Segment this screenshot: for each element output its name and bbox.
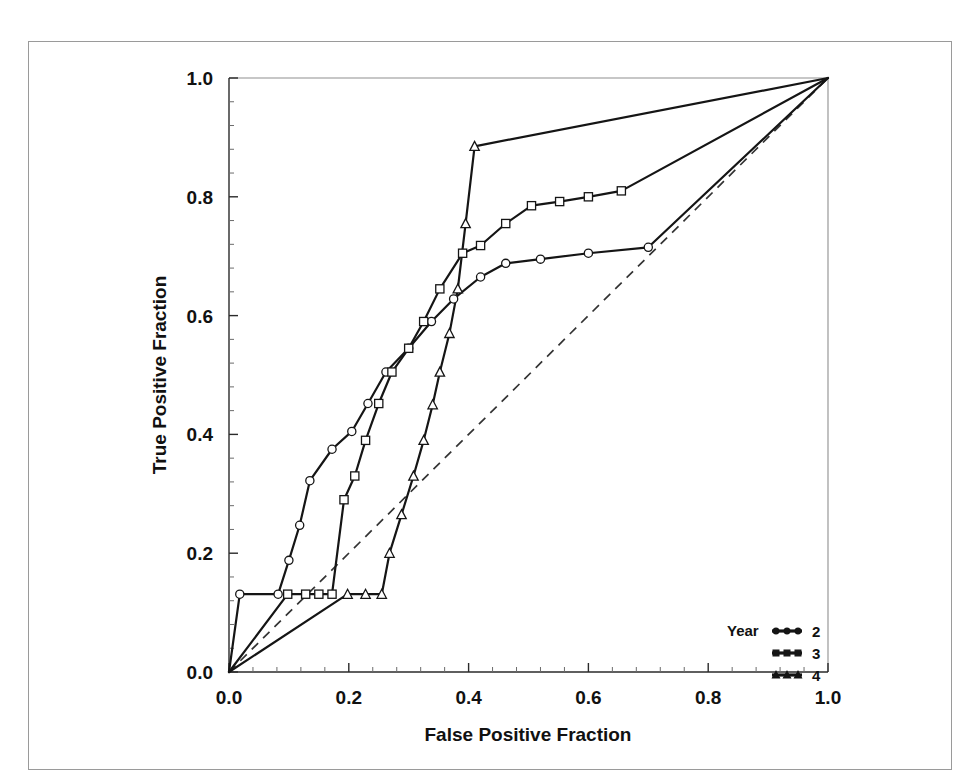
marker-square-year-3 [436,285,444,293]
x-tick-label: 0.6 [575,687,601,708]
marker-square-year-3 [617,187,625,195]
marker-triangle-year-4 [445,329,454,338]
marker-square-year-3 [527,202,535,210]
marker-circle-year-2 [644,243,652,251]
marker-square-year-3 [502,219,510,227]
legend-label-year-2: 2 [812,623,820,640]
marker-circle-year-2 [306,477,314,485]
marker-triangle-year-4 [409,471,418,480]
marker-circle-year-2 [285,556,293,564]
marker-square-year-3 [361,436,369,444]
x-axis-title: False Positive Fraction [425,724,632,745]
legend-marker-square-3-1 [784,650,790,656]
x-tick-label: 0.4 [455,687,482,708]
marker-triangle-year-4 [453,284,462,293]
legend[interactable]: Year234 [727,622,821,684]
marker-circle-year-2 [274,590,282,598]
marker-triangle-year-4 [435,367,444,376]
x-tick-label: 1.0 [815,687,841,708]
legend-marker-square-3-0 [773,650,779,656]
legend-marker-circle-2-1 [784,628,790,634]
marker-circle-year-2 [296,521,304,529]
legend-label-year-4: 4 [812,667,821,684]
x-tick-label: 0.0 [216,687,242,708]
y-tick-label: 0.6 [187,306,213,327]
marker-circle-year-2 [536,255,544,263]
y-tick-label: 0.4 [187,424,214,445]
marker-square-year-3 [328,590,336,598]
marker-circle-year-2 [450,295,458,303]
x-tick-label: 0.2 [336,687,362,708]
marker-triangle-year-4 [419,435,428,444]
marker-triangle-year-4 [428,400,437,409]
legend-marker-circle-2-2 [795,628,801,634]
legend-title: Year [727,622,759,639]
marker-circle-year-2 [502,259,510,267]
legend-marker-circle-2-0 [773,628,779,634]
marker-circle-year-2 [328,445,336,453]
marker-square-year-3 [405,344,413,352]
chance-diagonal-line [229,78,828,672]
marker-square-year-3 [351,472,359,480]
marker-circle-year-2 [584,249,592,257]
marker-square-year-3 [340,496,348,504]
marker-circle-year-2 [236,590,244,598]
marker-square-year-3 [284,590,292,598]
y-tick-label: 1.0 [187,68,213,89]
marker-square-year-3 [459,249,467,257]
y-axis-title: True Positive Fraction [149,276,170,475]
marker-circle-year-2 [476,273,484,281]
legend-marker-square-3-2 [795,650,801,656]
marker-triangle-year-4 [397,510,406,519]
y-tick-label: 0.0 [187,662,213,683]
marker-square-year-3 [556,197,564,205]
marker-square-year-3 [315,590,323,598]
marker-square-year-3 [388,368,396,376]
tick-labels: 0.00.20.40.60.81.00.00.20.40.60.81.0 [187,68,842,708]
marker-square-year-3 [420,317,428,325]
chance-diagonal-line [229,78,828,672]
marker-circle-year-2 [364,399,372,407]
y-tick-label: 0.2 [187,543,213,564]
y-tick-label: 0.8 [187,187,213,208]
marker-square-year-3 [476,241,484,249]
marker-circle-year-2 [348,427,356,435]
roc-chart: 0.00.20.40.60.81.00.00.20.40.60.81.0 Yea… [0,0,980,781]
legend-label-year-3: 3 [812,645,820,662]
marker-square-year-3 [584,193,592,201]
chart-page: 0.00.20.40.60.81.00.00.20.40.60.81.0 Yea… [0,0,980,781]
marker-triangle-year-4 [385,548,394,557]
x-tick-label: 0.8 [695,687,721,708]
marker-circle-year-2 [427,317,435,325]
marker-square-year-3 [302,590,310,598]
marker-square-year-3 [375,399,383,407]
marker-triangle-year-4 [461,219,470,228]
data-markers [236,141,653,598]
